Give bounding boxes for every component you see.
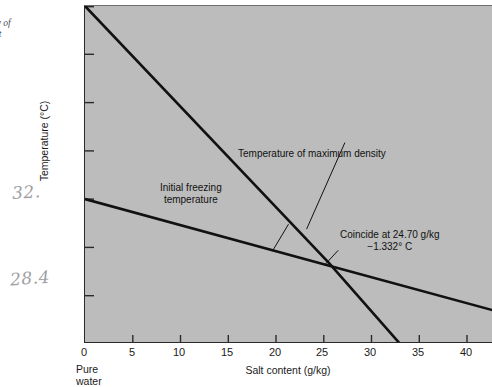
x-tick-label: 5 (117, 346, 147, 358)
page-number-note: 32. (11, 181, 41, 203)
chart-svg (85, 6, 492, 343)
x-tick-label: 30 (355, 346, 385, 358)
x-tick-label: 15 (212, 346, 242, 358)
series-max-density-line (85, 6, 400, 343)
x-tick-label: 0 (69, 346, 99, 358)
y-tick-marks (85, 7, 94, 296)
pure-water-label: Pure water (76, 364, 102, 387)
y-axis-title: Temperature (°C) (38, 81, 50, 201)
freezing-leader (272, 224, 288, 251)
series-freezing-line (85, 199, 492, 310)
x-tick-label: 25 (307, 346, 337, 358)
coincide-annotation-label: Coincide at 24.70 g/kg −1.332° C (340, 229, 440, 253)
x-tick-label: 35 (403, 346, 433, 358)
freezing-annotation-label: Initial freezing temperature (160, 182, 222, 206)
x-tick-marks (133, 335, 467, 343)
coincide-leader (325, 250, 338, 264)
max-density-annotation-label: Temperature of maximum density (238, 148, 386, 160)
margin-caption: e ty of nt (0, 6, 40, 41)
x-tick-label: 10 (164, 346, 194, 358)
x-tick-label: 20 (260, 346, 290, 358)
figure-number-note: 28.4 (9, 267, 50, 290)
x-tick-label: 40 (451, 346, 481, 358)
chart-plot-area (84, 5, 492, 343)
x-axis-title: Salt content (g/kg) (84, 364, 492, 376)
